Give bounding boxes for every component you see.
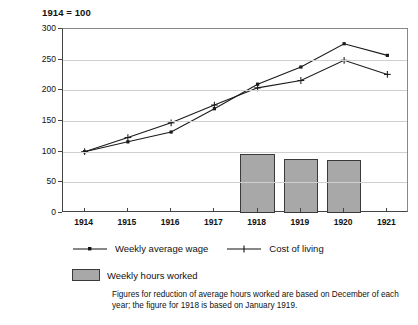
x-axis-tick	[170, 208, 171, 212]
y-axis-label: 100	[30, 146, 56, 156]
y-axis-tick	[58, 120, 62, 121]
marker-weekly-average-wage-1921	[386, 54, 389, 57]
chart-footnote: Figures for reduction of average hours w…	[112, 290, 404, 312]
line-plus-marker-icon	[226, 244, 262, 254]
legend-lines: Weekly average wage Cost of living	[72, 243, 342, 254]
x-axis-tick	[84, 208, 85, 212]
x-axis-tick	[386, 208, 387, 212]
x-axis-label: 1921	[366, 217, 406, 227]
plot-area	[62, 28, 408, 212]
x-axis-tick	[343, 208, 344, 212]
x-axis-label: 1918	[237, 217, 277, 227]
legend-item-weekly-hours-worked: Weekly hours worked	[72, 269, 198, 281]
legend-item-cost-of-living: Cost of living	[226, 243, 323, 254]
gridline	[63, 182, 407, 183]
legend-label-cost-of-living: Cost of living	[269, 243, 323, 254]
y-axis-label: 0	[30, 207, 56, 217]
legend-item-weekly-average-wage: Weekly average wage	[72, 243, 208, 254]
gridline	[63, 90, 407, 91]
y-axis-tick	[58, 89, 62, 90]
x-axis-label: 1915	[107, 217, 147, 227]
y-axis-tick	[58, 181, 62, 182]
x-axis-label: 1914	[64, 217, 104, 227]
y-axis-label: 150	[30, 115, 56, 125]
marker-weekly-average-wage-1919	[299, 65, 302, 68]
marker-weekly-average-wage-1920	[343, 42, 346, 45]
marker-cost-of-living-1921	[384, 71, 391, 78]
marker-cost-of-living-1915	[124, 134, 131, 141]
x-axis-tick	[213, 208, 214, 212]
y-axis-tick	[58, 28, 62, 29]
x-axis-label: 1916	[150, 217, 190, 227]
x-axis-label: 1920	[323, 217, 363, 227]
gridline	[63, 121, 407, 122]
y-axis-label: 250	[30, 54, 56, 64]
x-axis-tick	[257, 208, 258, 212]
legend-label-weekly-hours-worked: Weekly hours worked	[107, 270, 198, 281]
legend-bars: Weekly hours worked	[72, 269, 216, 281]
chart-container: 1914 = 100 05010015020025030019141915191…	[0, 0, 418, 325]
x-axis-tick	[127, 208, 128, 212]
bar-swatch-icon	[72, 269, 100, 281]
marker-weekly-average-wage-1916	[170, 130, 173, 133]
line-dot-marker-icon	[72, 244, 108, 254]
gridline	[63, 60, 407, 61]
y-axis-label: 200	[30, 84, 56, 94]
y-axis-tick	[58, 212, 62, 213]
x-axis-tick	[300, 208, 301, 212]
legend-label-weekly-average-wage: Weekly average wage	[115, 243, 208, 254]
y-axis-label: 300	[30, 23, 56, 33]
y-axis-tick	[58, 59, 62, 60]
x-axis-label: 1917	[193, 217, 233, 227]
x-axis-label: 1919	[280, 217, 320, 227]
chart-index-note: 1914 = 100	[42, 7, 91, 18]
gridline	[63, 152, 407, 153]
y-axis-label: 50	[30, 176, 56, 186]
marker-cost-of-living-1919	[297, 77, 304, 84]
y-axis-tick	[58, 151, 62, 152]
